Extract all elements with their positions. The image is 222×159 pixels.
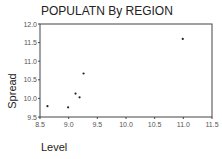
- data-point: [78, 96, 80, 98]
- x-tick-label: 10.0: [119, 121, 133, 128]
- x-tick-label: 9.0: [64, 121, 74, 128]
- y-tick-label: 9.5: [27, 114, 37, 121]
- y-tick-label: 11.0: [24, 58, 37, 65]
- data-point: [74, 92, 76, 94]
- data-point: [182, 38, 184, 40]
- x-tick-label: 10.5: [148, 121, 162, 128]
- y-tick-label: 10.5: [23, 76, 37, 83]
- y-tick-label: 12.0: [23, 21, 37, 28]
- x-tick-label: 11.5: [205, 121, 218, 128]
- x-axis-label: Level: [41, 141, 67, 153]
- data-point: [46, 105, 48, 107]
- data-point: [67, 106, 69, 108]
- scatter-plot: 8.59.09.510.010.511.011.59.510.010.511.0…: [0, 0, 222, 159]
- y-tick-label: 11.5: [24, 39, 37, 46]
- x-tick-label: 9.5: [92, 121, 102, 128]
- x-tick-label: 8.5: [35, 121, 45, 128]
- chart-title: POPULATN By REGION: [41, 4, 173, 18]
- x-tick-label: 11.0: [177, 121, 190, 128]
- plot-frame: [40, 24, 212, 117]
- y-axis-label: Spread: [6, 73, 18, 108]
- y-tick-label: 10.0: [23, 95, 37, 102]
- data-point: [82, 72, 84, 74]
